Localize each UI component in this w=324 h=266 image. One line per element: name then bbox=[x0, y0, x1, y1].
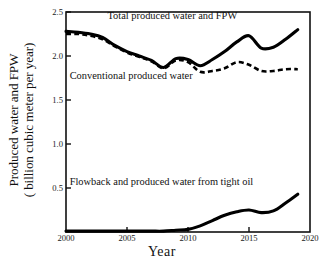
plot-area: Total produced water and FPW Conventiona… bbox=[0, 0, 324, 266]
x-axis-title: Year bbox=[0, 244, 324, 260]
annotation-flowback-and-produced-water-from-tight-oil: Flowback and produced water from tight o… bbox=[70, 176, 254, 187]
chart-figure: Produced water and FPW ( billion cubic m… bbox=[0, 0, 324, 266]
annotation-total-produced-water-and-fpw: Total produced water and FPW bbox=[108, 10, 238, 21]
annotation-conventional-produced-water: Conventional produced water bbox=[70, 70, 193, 81]
axes-frame bbox=[66, 12, 310, 232]
